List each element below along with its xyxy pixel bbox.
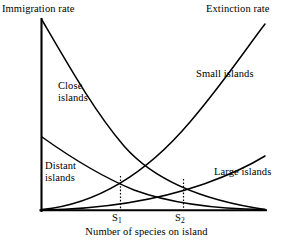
x-tick-label-s1: S1 [102,212,132,225]
series-label-distant-islands-line2: islands [45,172,75,183]
axis-label-immigration-rate: Immigration rate [2,3,74,15]
series-label-close-islands-line1: Close [58,80,82,91]
series-label-large-islands: Large islands [214,166,271,178]
x-axis-title: Number of species on island [0,226,293,238]
island-biogeography-figure: Immigration rate Extinction rate Closeis… [0,0,293,242]
plot-area [0,0,293,242]
x-tick-label-s2: S2 [165,212,195,225]
series-label-distant-islands: Distantislands [45,160,76,183]
axis-label-extinction-rate: Extinction rate [206,3,270,15]
series-label-small-islands: Small islands [196,68,254,80]
series-label-close-islands-line2: islands [58,92,88,103]
x-tick-label-s1-subscript: 1 [118,216,122,225]
x-tick-label-s2-subscript: 2 [181,216,185,225]
series-label-close-islands: Closeislands [58,80,88,103]
series-label-distant-islands-line1: Distant [45,160,76,171]
